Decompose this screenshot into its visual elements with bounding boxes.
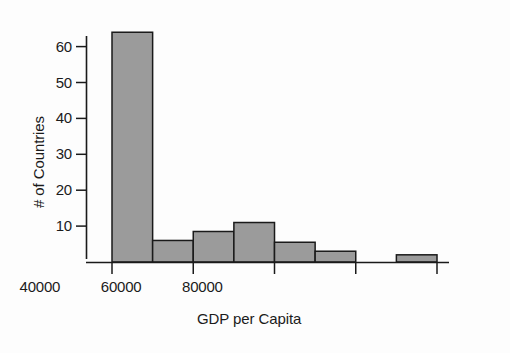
y-axis-title: # of Countries [30, 116, 47, 208]
x-tick-label: 60000 [101, 278, 142, 295]
histogram-bar [112, 32, 153, 262]
y-axis-ticks [76, 47, 87, 227]
histogram-bar [153, 240, 194, 262]
histogram-bar [396, 255, 437, 262]
y-tick-label: 50 [56, 74, 72, 91]
y-tick-label: 60 [56, 38, 72, 55]
y-tick-label: 10 [56, 217, 72, 234]
x-axis-ticks [112, 262, 437, 274]
histogram-bar [275, 242, 316, 262]
histogram-bar [315, 251, 356, 262]
bars-group [112, 32, 437, 262]
x-tick-label: 40000 [20, 278, 61, 295]
y-tick-label: 30 [56, 145, 72, 162]
histogram-bar [193, 231, 234, 262]
histogram-bar [234, 223, 275, 262]
y-tick-label: 20 [56, 181, 72, 198]
x-tick-label: 80000 [182, 278, 223, 295]
histogram-figure: 102030405060 020000400006000080000 # of … [0, 0, 510, 353]
y-tick-label: 40 [56, 109, 72, 126]
x-axis-title: GDP per Capita [197, 310, 301, 327]
histogram-plot-area [0, 0, 510, 353]
